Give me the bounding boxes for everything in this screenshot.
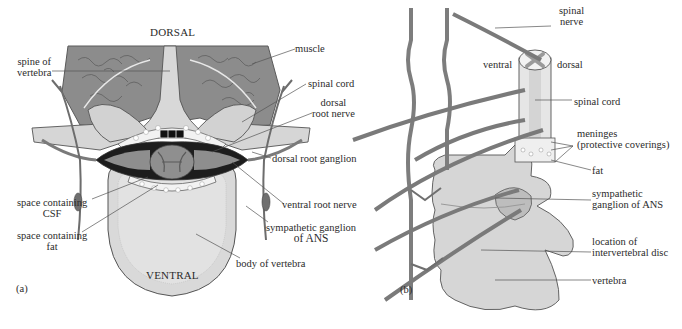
label-sympathetic-ganglion-b: sympathetic ganglion of ANS xyxy=(592,188,663,210)
label-vertebra: vertebra xyxy=(592,275,626,286)
label-space-csf: space containing CSF xyxy=(17,197,87,219)
label-spine-of-vertebra: spine of vertebra xyxy=(17,56,51,78)
label-spinal-nerve: spinal nerve xyxy=(559,5,584,27)
panel-a-tag: (a) xyxy=(16,283,28,294)
label-dorsal-root-ganglion: dorsal root ganglion xyxy=(272,153,357,164)
panel-b-lateral-view: spinal nerve ventral dorsal spinal cord … xyxy=(345,0,682,329)
orientation-ventral: VENTRAL xyxy=(146,270,199,281)
label-ventral: ventral xyxy=(483,59,512,70)
label-dorsal: dorsal xyxy=(557,59,583,70)
panel-b-tag: (b) xyxy=(400,284,412,295)
lateral-illustration xyxy=(345,0,682,329)
label-muscle: muscle xyxy=(295,43,325,54)
panel-a-cross-section: DORSAL spine of vertebra muscle spinal c… xyxy=(0,0,345,329)
orientation-dorsal: DORSAL xyxy=(150,27,195,38)
label-fat: fat xyxy=(592,165,603,176)
label-sympathetic-ganglion: sympathetic ganglion of ANS xyxy=(266,222,356,244)
label-meninges: meninges (protective coverings) xyxy=(577,128,669,150)
label-space-fat: space containing fat xyxy=(17,230,87,252)
label-intervertebral-disc: location of intervertebral disc xyxy=(592,236,668,258)
label-body-of-vertebra: body of vertebra xyxy=(236,258,305,269)
label-spinal-cord-b: spinal cord xyxy=(574,96,620,107)
